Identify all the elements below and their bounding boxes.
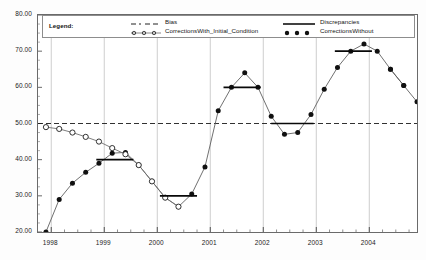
chart-screenshot: 20.0030.0040.0050.0060.0070.0080.00 1998… (0, 0, 426, 260)
y-axis-label: 20.00 (0, 227, 32, 234)
data-point-corrections-with-initial-condition (57, 126, 62, 131)
y-axis-label: 70.00 (0, 46, 32, 53)
data-point-corrections-without (282, 132, 287, 137)
data-point-corrections-without (308, 112, 313, 117)
x-axis-label: 2001 (189, 239, 229, 246)
data-point-corrections-with-initial-condition (83, 134, 88, 139)
legend-label-discrepancies: Discrepancies (320, 18, 360, 25)
y-axis-label: 30.00 (0, 191, 32, 198)
data-point-corrections-without (110, 151, 115, 156)
data-point-corrections-without (216, 108, 221, 113)
data-point-corrections-without (295, 130, 300, 135)
data-point-corrections-without (361, 41, 366, 46)
y-axis-label: 80.00 (0, 10, 32, 17)
data-point-corrections-without-tail (388, 67, 393, 72)
data-point-corrections-with-initial-condition (43, 125, 48, 130)
data-point-corrections-without-tail (415, 99, 418, 104)
data-point-corrections-with-initial-condition (70, 130, 75, 135)
plot-canvas (38, 15, 417, 232)
legend-title: Legend: (49, 22, 73, 29)
series-corrections-with-initial-condition-line (46, 127, 179, 207)
data-point-corrections-without (269, 114, 274, 119)
legend-marker-corrections-with-initial-condition (131, 29, 161, 37)
data-point-corrections-without (43, 230, 48, 233)
data-point-corrections-without (242, 70, 247, 75)
data-point-corrections-without (57, 197, 62, 202)
data-point-corrections-with-initial-condition (176, 204, 181, 209)
data-point-corrections-without (335, 65, 340, 70)
data-point-corrections-with-initial-condition (123, 152, 128, 157)
x-axis-label: 1998 (30, 239, 70, 246)
legend-box: Legend: Bias CorrectionsWith_Initial_Con… (42, 15, 415, 38)
legend-label-bias: Bias (165, 18, 177, 25)
x-axis-label: 2004 (348, 239, 388, 246)
data-point-corrections-with-initial-condition (136, 162, 141, 167)
x-axis-label: 2003 (295, 239, 335, 246)
data-point-corrections-without (322, 87, 327, 92)
x-axis-label: 1999 (83, 239, 123, 246)
x-axis-label: 2000 (136, 239, 176, 246)
y-axis-label: 50.00 (0, 119, 32, 126)
y-axis-label: 60.00 (0, 82, 32, 89)
legend-marker-bias (131, 20, 161, 28)
legend-label-corrections-without: CorrectionsWithout (320, 27, 374, 34)
y-axis-label: 40.00 (0, 155, 32, 162)
legend-label-corrections-with-initial-condition: CorrectionsWith_Initial_Condition (165, 27, 258, 34)
data-point-corrections-with-initial-condition (149, 179, 154, 184)
data-point-corrections-without (375, 49, 380, 54)
data-point-corrections-with-initial-condition (96, 139, 101, 144)
data-point-corrections-without-tail (401, 83, 406, 88)
data-point-corrections-without (202, 164, 207, 169)
legend-marker-corrections-without (283, 29, 315, 37)
x-axis-label: 2002 (242, 239, 282, 246)
series-corrections-without-line (46, 44, 404, 232)
data-point-corrections-without (96, 161, 101, 166)
data-point-corrections-without (70, 181, 75, 186)
plot-frame (37, 14, 418, 233)
data-point-corrections-with-initial-condition (110, 145, 115, 150)
legend-marker-discrepancies (283, 20, 315, 28)
data-point-corrections-without (83, 170, 88, 175)
